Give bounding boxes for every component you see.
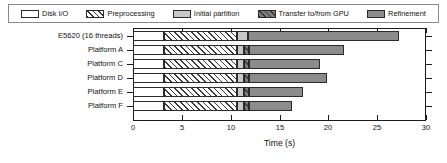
legend-swatch-icon (367, 10, 385, 18)
bar-segment[interactable] (133, 73, 164, 83)
bar-segment[interactable] (249, 73, 327, 83)
x-axis-tick-label: 25 (365, 123, 389, 132)
y-axis-tick-right (426, 50, 432, 51)
bar-segment[interactable] (164, 45, 236, 55)
bar-segment[interactable] (164, 87, 236, 97)
x-axis-tick-label: 5 (170, 123, 194, 132)
chart-legend: Disk I/OPreprocessingInitial partitionTr… (8, 4, 439, 23)
bar-segment[interactable] (249, 59, 319, 69)
legend-swatch-icon (173, 10, 191, 18)
x-axis-line (133, 120, 426, 121)
bar-segment[interactable] (237, 101, 245, 111)
bar-segment[interactable] (237, 45, 245, 55)
y-axis-category-label: Platform D (87, 73, 123, 82)
x-axis-tick (231, 115, 232, 120)
x-axis-tick-top (426, 28, 427, 33)
legend-swatch-icon (258, 10, 276, 18)
legend-item[interactable]: Preprocessing (86, 9, 154, 18)
legend-item[interactable]: Disk I/O (21, 9, 68, 18)
y-axis-tick-right (426, 36, 432, 37)
bar-segment[interactable] (248, 31, 398, 41)
x-axis-label: Time (s) (133, 138, 426, 148)
legend-label: Disk I/O (42, 9, 68, 18)
y-axis-tick-right (426, 92, 432, 93)
legend-item[interactable]: Refinement (367, 9, 426, 18)
legend-label: Initial partition (194, 9, 240, 18)
y-axis-category-label: Platform E (88, 87, 123, 96)
bar-segment[interactable] (164, 31, 236, 41)
x-axis-tick (133, 115, 134, 120)
y-axis-category-label: Platform C (87, 59, 123, 68)
y-axis-category-label: Platform F (88, 101, 123, 110)
bar-segment[interactable] (164, 101, 236, 111)
legend-swatch-icon (86, 10, 104, 18)
y-axis-tick-right (426, 78, 432, 79)
x-axis-tick-label: 20 (316, 123, 340, 132)
x-axis-tick-label: 0 (121, 123, 145, 132)
x-axis-tick (426, 115, 427, 120)
legend-swatch-icon (21, 10, 39, 18)
bar-segment[interactable] (249, 45, 344, 55)
y-axis-tick-right (426, 64, 432, 65)
bar-segment[interactable] (164, 59, 236, 69)
y-axis-tick-right (426, 106, 432, 107)
bar-segment[interactable] (133, 59, 164, 69)
legend-item[interactable]: Transfer to/from GPU (258, 9, 349, 18)
x-axis-tick-label: 10 (219, 123, 243, 132)
bar-segment[interactable] (133, 87, 164, 97)
bar-segment[interactable] (133, 45, 164, 55)
legend-item[interactable]: Initial partition (173, 9, 240, 18)
bar-segment[interactable] (237, 73, 245, 83)
y-axis-category-label: E5620 (16 threads) (58, 31, 123, 40)
x-axis-tick (328, 115, 329, 120)
x-axis-tick-label: 30 (414, 123, 438, 132)
bar-segment[interactable] (249, 101, 292, 111)
legend-label: Refinement (388, 9, 426, 18)
y-axis-category-label: Platform A (88, 45, 123, 54)
bar-segment[interactable] (237, 59, 245, 69)
bar-segment[interactable] (164, 73, 236, 83)
x-axis-tick (280, 115, 281, 120)
bar-segment[interactable] (237, 87, 245, 97)
legend-label: Preprocessing (107, 9, 154, 18)
bar-segment[interactable] (133, 101, 164, 111)
bar-segment[interactable] (133, 31, 164, 41)
stacked-bar-chart: Disk I/OPreprocessingInitial partitionTr… (0, 0, 447, 163)
x-axis-tick-label: 15 (268, 123, 292, 132)
bar-segment[interactable] (249, 87, 303, 97)
bar-segment[interactable] (237, 31, 249, 41)
x-axis-tick (377, 115, 378, 120)
legend-label: Transfer to/from GPU (279, 9, 349, 18)
x-axis-tick (182, 115, 183, 120)
